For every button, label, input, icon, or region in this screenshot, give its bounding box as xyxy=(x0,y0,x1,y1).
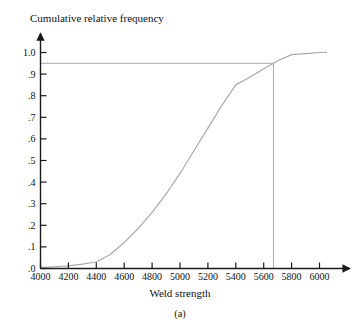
x-tick-label: 4800 xyxy=(142,271,162,282)
y-tick-label: .2 xyxy=(28,220,36,231)
y-tick-label: .1 xyxy=(28,241,36,252)
y-tick-label: .7 xyxy=(28,112,36,123)
y-tick-label: .3 xyxy=(28,198,36,209)
y-tick-label: .8 xyxy=(28,90,36,101)
data-series-0 xyxy=(41,53,327,268)
y-tick-label: 1.0 xyxy=(23,47,36,58)
y-tick-label: .6 xyxy=(28,133,36,144)
x-tick-label: 5600 xyxy=(254,271,274,282)
y-tick-label: .5 xyxy=(28,155,36,166)
x-tick-label: 5400 xyxy=(226,271,246,282)
y-tick-label: .0 xyxy=(28,263,36,274)
x-axis-label: Weld strength xyxy=(0,287,360,299)
x-tick-label: 5200 xyxy=(198,271,218,282)
y-tick-label: .4 xyxy=(28,177,36,188)
x-tick-label: 4400 xyxy=(86,271,106,282)
x-tick-label: 5000 xyxy=(170,271,190,282)
y-tick-label: .9 xyxy=(28,69,36,80)
cumulative-frequency-plot: 4000420044004600480050005200540056005800… xyxy=(0,0,360,332)
figure-caption: (a) xyxy=(0,308,360,319)
x-tick-label: 4600 xyxy=(114,271,134,282)
figure-container: Cumulative relative frequency 4000420044… xyxy=(0,0,360,332)
x-tick-label: 5800 xyxy=(282,271,302,282)
x-tick-label: 4200 xyxy=(58,271,78,282)
x-tick-label: 6000 xyxy=(310,271,330,282)
